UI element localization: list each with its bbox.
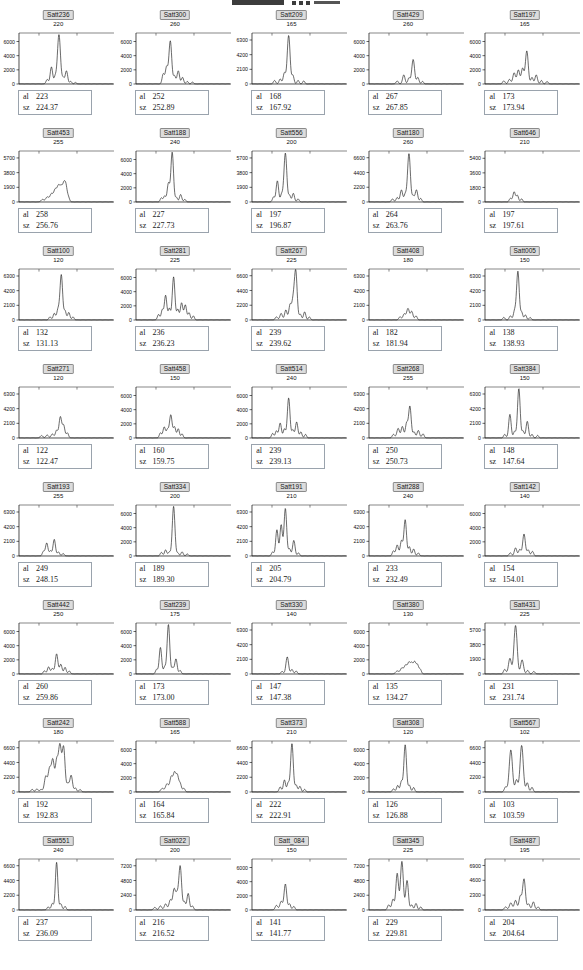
electropherogram-trace: 0220044006600 xyxy=(0,855,117,917)
allele-value: 236 xyxy=(153,328,165,337)
allele-value: 173 xyxy=(502,92,514,101)
marker-title-badge[interactable]: Satt100 xyxy=(43,246,73,256)
svg-text:0: 0 xyxy=(362,553,365,559)
panel-size-label: 140 xyxy=(466,493,583,499)
marker-title-badge[interactable]: Satt373 xyxy=(276,718,306,728)
marker-title-badge[interactable]: Satt267 xyxy=(276,246,306,256)
marker-title-badge[interactable]: Satt209 xyxy=(276,10,306,20)
marker-title-badge[interactable]: Satt551 xyxy=(43,836,73,846)
marker-title-badge[interactable]: Satt442 xyxy=(43,600,73,610)
marker-title-badge[interactable]: Satt005 xyxy=(509,246,539,256)
size-row: sz229.81 xyxy=(369,929,441,940)
marker-title-badge[interactable]: Satt191 xyxy=(276,482,306,492)
marker-title-badge[interactable]: Satt180 xyxy=(393,128,423,138)
marker-title-badge[interactable]: Satt588 xyxy=(160,718,190,728)
marker-title-badge[interactable]: Satt453 xyxy=(43,128,73,138)
size-value: 154.01 xyxy=(502,575,524,584)
marker-title-badge[interactable]: Satt_084 xyxy=(274,836,308,846)
marker-panel: Satt2091650210042006300al168sz167.92 xyxy=(233,10,350,128)
allele-info-box: al216sz216.52 xyxy=(135,916,209,941)
size-row: sz239.13 xyxy=(252,457,324,468)
size-key: sz xyxy=(489,929,502,940)
marker-title-badge[interactable]: Satt487 xyxy=(509,836,539,846)
marker-title-badge[interactable]: Satt514 xyxy=(276,364,306,374)
svg-text:0: 0 xyxy=(12,317,15,323)
marker-title-badge[interactable]: Satt431 xyxy=(509,600,539,610)
titlebar-dot xyxy=(292,1,296,5)
marker-title-badge[interactable]: Satt022 xyxy=(160,836,190,846)
allele-row: al205 xyxy=(252,564,324,575)
svg-text:7200: 7200 xyxy=(353,863,365,869)
size-value: 197.61 xyxy=(502,221,524,230)
size-row: sz259.86 xyxy=(19,693,91,704)
electropherogram-trace: 0200040006000 xyxy=(117,619,234,681)
size-key: sz xyxy=(256,575,269,586)
marker-title-badge[interactable]: Satt345 xyxy=(393,836,423,846)
panel-size-label: 210 xyxy=(466,139,583,145)
marker-title-badge[interactable]: Satt334 xyxy=(160,482,190,492)
svg-text:1900: 1900 xyxy=(237,184,249,190)
marker-title-badge[interactable]: Satt556 xyxy=(276,128,306,138)
marker-title-badge[interactable]: Satt380 xyxy=(393,600,423,610)
svg-text:0: 0 xyxy=(12,199,15,205)
svg-text:0: 0 xyxy=(478,199,481,205)
marker-title-badge[interactable]: Satt236 xyxy=(43,10,73,20)
size-key: sz xyxy=(140,457,153,468)
allele-value: 182 xyxy=(386,328,398,337)
marker-title-badge[interactable]: Satt408 xyxy=(393,246,423,256)
marker-title-badge[interactable]: Satt330 xyxy=(276,600,306,610)
svg-text:6000: 6000 xyxy=(120,157,132,163)
electropherogram-trace: 0220044006600 xyxy=(466,737,583,799)
marker-panel: Satt5881650200040006000al164sz165.84 xyxy=(117,718,234,836)
svg-text:6300: 6300 xyxy=(237,509,249,515)
svg-text:4200: 4200 xyxy=(353,524,365,530)
marker-title-badge[interactable]: Satt197 xyxy=(509,10,539,20)
marker-title-badge[interactable]: Satt308 xyxy=(393,718,423,728)
allele-info-box: al267sz267.85 xyxy=(368,90,442,115)
allele-info-box: al164sz165.84 xyxy=(135,798,209,823)
marker-panel: Satt2812250200040006000al236sz236.23 xyxy=(117,246,234,364)
marker-title-badge[interactable]: Satt268 xyxy=(393,364,423,374)
marker-title-badge[interactable]: Satt239 xyxy=(160,600,190,610)
marker-title-badge[interactable]: Satt242 xyxy=(43,718,73,728)
marker-title-badge[interactable]: Satt458 xyxy=(160,364,190,374)
size-key: sz xyxy=(256,339,269,350)
marker-panel: Satt2672250220044006600al239sz239.62 xyxy=(233,246,350,364)
allele-key: al xyxy=(256,682,269,693)
marker-title-badge[interactable]: Satt142 xyxy=(509,482,539,492)
panel-size-label: 195 xyxy=(466,847,583,853)
size-value: 131.13 xyxy=(36,339,58,348)
size-key: sz xyxy=(140,575,153,586)
allele-row: al264 xyxy=(369,210,441,221)
marker-title-badge[interactable]: Satt288 xyxy=(393,482,423,492)
panel-size-label: 120 xyxy=(0,257,117,263)
marker-panel: Satt0222000240048007200al216sz216.52 xyxy=(117,836,234,954)
marker-title-badge[interactable]: Satt271 xyxy=(43,364,73,374)
electropherogram-panel-grid: Satt2362200200040006000al223sz224.37Satt… xyxy=(0,10,583,970)
size-key: sz xyxy=(140,339,153,350)
svg-text:2100: 2100 xyxy=(3,538,15,544)
marker-title-badge[interactable]: Satt188 xyxy=(160,128,190,138)
marker-title-badge[interactable]: Satt193 xyxy=(43,482,73,492)
size-row: sz231.74 xyxy=(485,693,557,704)
allele-info-box: al126sz126.88 xyxy=(368,798,442,823)
size-value: 167.92 xyxy=(269,103,291,112)
marker-title-badge[interactable]: Satt281 xyxy=(160,246,190,256)
marker-title-badge[interactable]: Satt646 xyxy=(509,128,539,138)
svg-text:2100: 2100 xyxy=(3,420,15,426)
marker-title-badge[interactable]: Satt300 xyxy=(160,10,190,20)
size-key: sz xyxy=(489,457,502,468)
marker-panel: Satt4422500200040006000al260sz259.86 xyxy=(0,600,117,718)
size-key: sz xyxy=(256,221,269,232)
marker-title-badge[interactable]: Satt567 xyxy=(509,718,539,728)
svg-text:0: 0 xyxy=(12,789,15,795)
svg-text:6000: 6000 xyxy=(3,629,15,635)
allele-key: al xyxy=(489,564,502,575)
svg-text:4200: 4200 xyxy=(470,406,482,412)
panel-size-label: 175 xyxy=(117,611,234,617)
marker-title-badge[interactable]: Satt384 xyxy=(509,364,539,374)
electropherogram-trace: 0200040006000 xyxy=(117,501,234,563)
marker-title-badge[interactable]: Satt429 xyxy=(393,10,423,20)
svg-text:6000: 6000 xyxy=(470,39,482,45)
allele-row: al216 xyxy=(136,918,208,929)
